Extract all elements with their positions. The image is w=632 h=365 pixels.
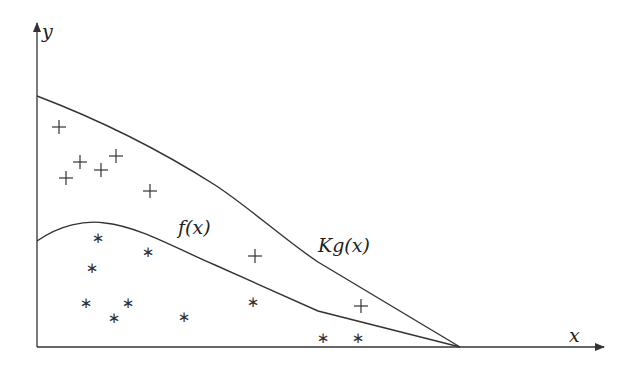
plot-area: ∗∗∗∗∗∗∗∗∗∗ [0, 0, 632, 365]
plus-marker [143, 184, 157, 198]
kg-curve-label: Kg(x) [318, 236, 370, 255]
star-marker: ∗ [317, 329, 330, 347]
plus-marker [354, 299, 368, 313]
plus-marker [109, 149, 123, 163]
plus-marker [59, 171, 73, 185]
y-axis-label: y [42, 22, 53, 41]
star-marker: ∗ [142, 243, 155, 261]
plus-marker [94, 163, 108, 177]
f-curve-label: f(x) [178, 218, 211, 237]
star-marker: ∗ [86, 259, 99, 277]
plus-marker [248, 249, 262, 263]
star-marker: ∗ [92, 229, 105, 247]
star-marker: ∗ [108, 309, 121, 327]
plus-marker [52, 120, 66, 134]
x-axis-label: x [569, 326, 580, 345]
star-marker: ∗ [247, 293, 260, 311]
star-marker: ∗ [80, 294, 93, 312]
plus-marker [73, 155, 87, 169]
star-marker: ∗ [178, 308, 191, 326]
diagram-canvas: ∗∗∗∗∗∗∗∗∗∗ y x Kg(x) f(x) [0, 0, 632, 365]
star-marker: ∗ [352, 329, 365, 347]
star-marker: ∗ [122, 294, 135, 312]
